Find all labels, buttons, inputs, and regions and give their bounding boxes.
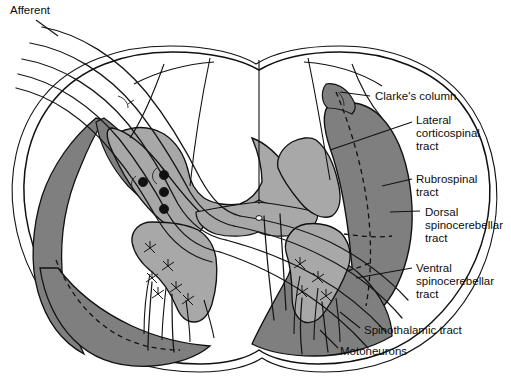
- label-lateral-corticospinal-line-2: corticospinal: [416, 127, 480, 139]
- label-lateral-corticospinal-line-1: Lateral: [416, 114, 451, 126]
- clarke-cell-2: [159, 170, 168, 179]
- label-ventral-spinocerebellar-line-2: spinocerebellar: [416, 275, 494, 287]
- label-spinothalamic-tract: Spinothalamic tract: [364, 324, 463, 336]
- clarke-cell-3: [159, 204, 168, 213]
- label-rubrospinal-line-2: tract: [416, 186, 439, 198]
- label-afferent: Afferent: [10, 4, 51, 16]
- clarke-cell-1: [138, 177, 147, 186]
- label-ventral-spinocerebellar-line-1: Ventral: [416, 262, 452, 274]
- clarke-cell-4: [159, 187, 168, 196]
- label-motoneurons: Motoneurons: [340, 345, 407, 357]
- spinal-cord-diagram: Afferent Clarke's column Lateral cortico…: [0, 0, 511, 378]
- label-dorsal-spinocerebellar-line-2: spinocerebellar: [425, 219, 503, 231]
- label-lateral-corticospinal-line-3: tract: [416, 140, 439, 152]
- central-canal: [256, 216, 262, 221]
- label-rubrospinal-line-1: Rubrospinal: [416, 173, 477, 185]
- label-ventral-spinocerebellar-line-3: tract: [416, 288, 439, 300]
- label-dorsal-spinocerebellar-line-3: tract: [425, 232, 448, 244]
- label-clarkes-column: Clarke's column: [375, 90, 456, 102]
- label-dorsal-spinocerebellar-line-1: Dorsal: [425, 206, 458, 218]
